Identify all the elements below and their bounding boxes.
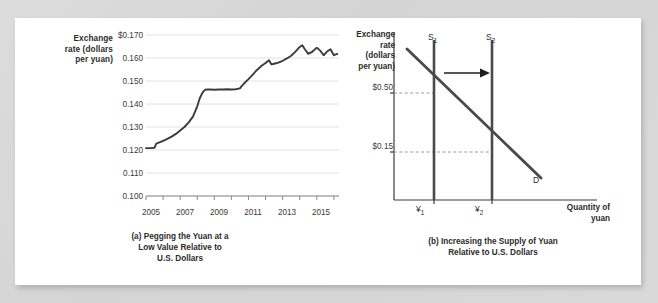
panel-b-supply1-subscript: 1: [434, 37, 438, 44]
panel-b-caption-line2: Relative to U.S. Dollars: [345, 247, 641, 258]
panel-a-line-chart: Exchange rate (dollars per yuan) $0.170 …: [15, 18, 345, 285]
panel-b-caption-line1: (b) Increasing the Supply of Yuan: [345, 236, 641, 247]
panel-b-xtick-yuan2-subscript: 2: [480, 209, 484, 216]
panel-a-caption-line1: (a) Pegging the Yuan at a: [15, 231, 345, 242]
panel-b-caption: (b) Increasing the Supply of Yuan Relati…: [345, 236, 641, 258]
panel-b-supply2-label: S2: [486, 32, 495, 44]
panel-b-x-axis-title: Quantity of yuan: [530, 203, 610, 224]
panel-b-supply1-label: S1: [428, 32, 437, 44]
panel-a-caption: (a) Pegging the Yuan at a Low Value Rela…: [15, 231, 345, 264]
figure-card: Exchange rate (dollars per yuan) $0.170 …: [15, 18, 641, 285]
panel-b-xtick-yuan1: ¥1: [416, 204, 424, 216]
panel-a-caption-line3: U.S. Dollars: [15, 253, 345, 264]
panel-a-caption-line2: Low Value Relative to: [15, 242, 345, 253]
panel-b-shift-arrow-head: [480, 69, 490, 78]
panel-b-supply-demand-diagram: Exchange rate (dollars per yuan) $0.50 $…: [345, 18, 641, 285]
panel-b-demand-letter: D: [533, 175, 539, 185]
panel-b-x-axis-title-line2: yuan: [530, 214, 610, 225]
panel-b-supply2-subscript: 2: [492, 37, 496, 44]
panel-b-demand-curve: [407, 49, 541, 178]
panel-b-xtick-yuan2: ¥2: [475, 204, 483, 216]
panel-b-x-axis-title-line1: Quantity of: [530, 203, 610, 214]
panel-b-demand-label: D: [533, 175, 539, 185]
panel-b-xtick-yuan1-subscript: 1: [421, 209, 425, 216]
panel-a-data-line: [146, 45, 337, 148]
